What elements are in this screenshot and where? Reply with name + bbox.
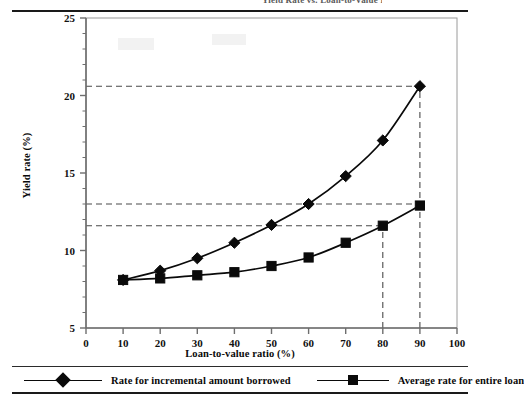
data-point-square-30	[193, 271, 202, 280]
legend-divider-bottom	[12, 392, 468, 394]
data-point-diamond-60	[303, 198, 314, 209]
y-tick-label-25: 25	[64, 12, 76, 24]
legend-entry-average: Average rate for entire loan	[317, 373, 524, 387]
legend-label-average: Average rate for entire loan	[398, 375, 524, 386]
data-point-diamond-90	[414, 81, 425, 92]
series-line-0	[123, 86, 420, 280]
legend-entry-incremental: Rate for incremental amount borrowed	[24, 373, 291, 387]
chart-legend: Rate for incremental amount borrowed Ave…	[12, 369, 468, 391]
legend-divider-top	[12, 366, 468, 367]
diamond-marker-icon	[24, 373, 102, 387]
data-point-square-80	[378, 221, 387, 230]
data-point-diamond-30	[192, 253, 203, 264]
data-point-square-90	[415, 201, 424, 210]
legend-label-incremental: Rate for incremental amount borrowed	[111, 375, 291, 386]
y-tick-label-20: 20	[64, 90, 76, 102]
data-point-diamond-50	[266, 219, 277, 230]
x-axis-title: Loan-to-value ratio (%)	[0, 348, 480, 359]
data-point-square-10	[119, 275, 128, 284]
data-point-diamond-40	[229, 237, 240, 248]
y-axis-title: Yield rate (%)	[21, 111, 32, 221]
data-point-square-50	[267, 261, 276, 270]
square-marker-icon	[317, 373, 389, 387]
y-tick-label-5: 5	[70, 322, 76, 334]
data-point-square-40	[230, 268, 239, 277]
data-point-square-70	[341, 238, 350, 247]
data-point-square-20	[156, 274, 165, 283]
y-tick-label-15: 15	[64, 167, 76, 179]
plot-frame	[86, 18, 457, 328]
y-tick-label-10: 10	[64, 245, 76, 257]
data-point-square-60	[304, 253, 313, 262]
